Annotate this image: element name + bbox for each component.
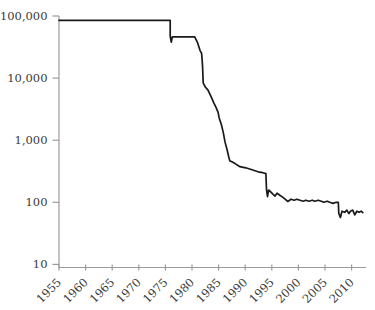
chart-figure: 100,00010,0001,00010010 1955196019651970… xyxy=(0,0,375,310)
x-tick-label: 1975 xyxy=(140,275,171,306)
x-axis-labels: 1955196019651970197519801985199019952000… xyxy=(34,275,357,306)
y-tick-label: 100,000 xyxy=(0,9,48,23)
y-axis-labels: 100,00010,0001,00010010 xyxy=(0,9,48,271)
series-line xyxy=(59,20,363,217)
y-tick-label: 10,000 xyxy=(7,71,47,85)
y-axis-ticks xyxy=(53,16,60,264)
x-tick-label: 1990 xyxy=(220,275,251,306)
x-tick-label: 1960 xyxy=(60,275,91,306)
x-tick-label: 1980 xyxy=(167,275,198,306)
x-tick-label: 2000 xyxy=(273,275,304,306)
x-tick-label: 1985 xyxy=(193,275,224,306)
data-series xyxy=(59,20,363,217)
y-tick-label: 10 xyxy=(33,257,48,271)
y-tick-label: 1,000 xyxy=(15,133,48,147)
x-tick-label: 2010 xyxy=(326,275,357,306)
x-tick-label: 1955 xyxy=(34,275,65,306)
y-tick-label: 100 xyxy=(26,195,48,209)
axes xyxy=(59,16,366,268)
x-tick-label: 2005 xyxy=(300,275,331,306)
x-tick-label: 1965 xyxy=(87,275,118,306)
line-chart: 100,00010,0001,00010010 1955196019651970… xyxy=(0,0,375,310)
x-tick-label: 1995 xyxy=(246,275,277,306)
x-tick-label: 1970 xyxy=(113,275,144,306)
